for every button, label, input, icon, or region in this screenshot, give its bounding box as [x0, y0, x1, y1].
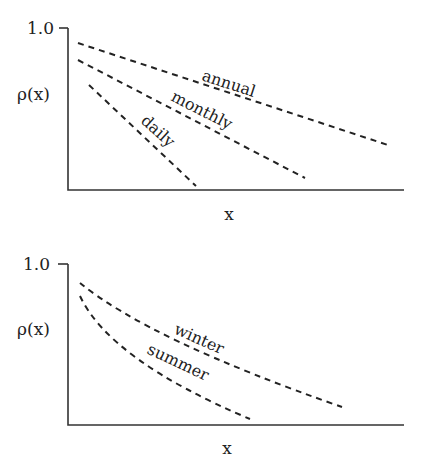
label-annual: annual — [200, 66, 258, 101]
y-tick-label: 1.0 — [27, 18, 54, 38]
bottom-chart: 1.0 ρ(x) x winter summer — [17, 254, 404, 458]
y-tick-label: 1.0 — [23, 254, 50, 274]
y-axis-label: ρ(x) — [17, 319, 50, 339]
x-axis-label: x — [222, 438, 232, 458]
axes — [68, 264, 404, 425]
y-axis-label: ρ(x) — [17, 84, 50, 104]
series-monthly — [78, 60, 305, 178]
label-monthly: monthly — [168, 87, 235, 134]
correlation-figure: 1.0 ρ(x) x annual monthly daily 1.0 ρ(x)… — [0, 0, 426, 467]
x-axis-label: x — [224, 204, 234, 224]
label-daily: daily — [137, 111, 179, 151]
axes — [68, 28, 404, 190]
top-chart: 1.0 ρ(x) x annual monthly daily — [17, 18, 404, 224]
